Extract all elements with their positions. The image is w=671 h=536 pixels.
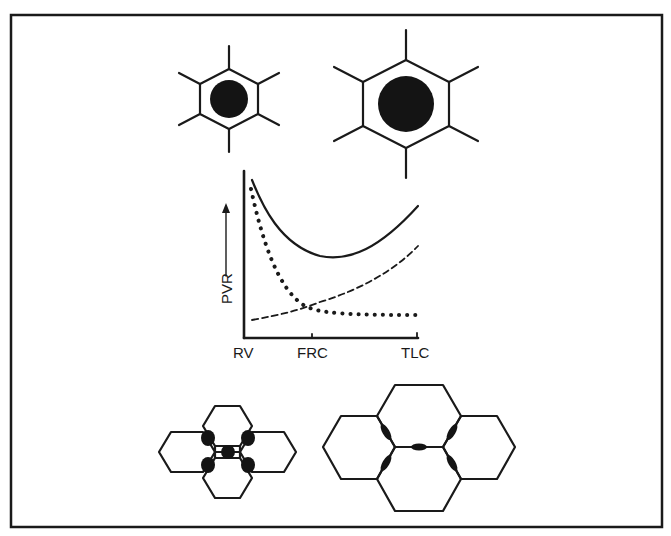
y-axis-label: PVR <box>218 273 235 304</box>
alveoli-cluster-high-volume-icon <box>323 385 515 511</box>
x-tick-label-tlc: TLC <box>401 344 430 361</box>
extra-alveolar-vessel-curve <box>251 189 418 315</box>
figure-frame <box>11 15 662 527</box>
total-pvr-curve <box>252 180 418 257</box>
vessel-lumen <box>210 80 248 118</box>
capillary <box>241 457 255 473</box>
pvr-graph: PVR RV FRC TLC <box>218 171 430 361</box>
capillary <box>411 444 427 451</box>
capillary <box>378 453 393 472</box>
vessel-lumen <box>378 76 434 132</box>
arrow-up-icon <box>222 203 230 276</box>
large-hexagon-vessel-icon <box>334 30 478 178</box>
capillary <box>378 422 393 441</box>
small-hexagon-vessel-icon <box>179 46 279 152</box>
capillary <box>444 422 459 441</box>
capillary <box>201 457 215 473</box>
x-tick-label-rv: RV <box>233 344 254 361</box>
capillary <box>221 445 235 459</box>
capillary <box>444 453 459 472</box>
figure-canvas: PVR RV FRC TLC <box>0 0 671 536</box>
x-tick-label-frc: FRC <box>297 344 328 361</box>
alveoli-cluster-low-volume-icon <box>159 406 296 498</box>
capillary <box>201 430 215 446</box>
capillary <box>241 430 255 446</box>
